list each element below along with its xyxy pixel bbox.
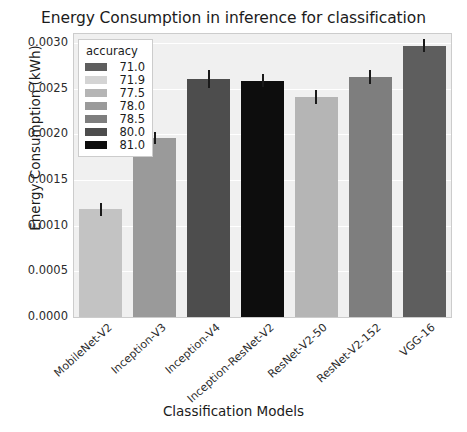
error-bar [100,203,102,216]
bar[interactable] [187,79,230,317]
bar[interactable] [133,138,176,317]
legend-label: 78.5 [115,112,145,126]
legend-swatch-icon [85,76,107,84]
legend-label: 71.0 [115,60,145,74]
y-tick-label: 0.0025 [4,81,68,95]
legend-title: accuracy [85,44,145,58]
error-bar [369,70,371,85]
bar[interactable] [241,81,284,317]
error-bar [154,132,156,145]
legend-item[interactable]: 78.0 [85,99,145,112]
legend-label: 81.0 [115,138,145,152]
legend: accuracy 71.071.977.578.078.580.081.0 [78,39,153,157]
legend-label: 80.0 [115,125,145,139]
error-bar [315,90,317,105]
x-axis-ticks: MobileNet-V2Inception-V3Inception-V4Ince… [0,321,467,401]
legend-item[interactable]: 81.0 [85,138,145,151]
legend-item[interactable]: 71.9 [85,73,145,86]
legend-label: 71.9 [115,73,145,87]
legend-item[interactable]: 80.0 [85,125,145,138]
y-tick-label: 0.0015 [4,172,68,186]
bar[interactable] [349,77,392,317]
y-tick-label: 0.0030 [4,35,68,49]
bar[interactable] [79,209,122,317]
legend-item[interactable]: 71.0 [85,60,145,73]
y-tick-label: 0.0020 [4,126,68,140]
bar[interactable] [403,46,446,317]
x-axis-label: Classification Models [0,403,467,419]
legend-swatch-icon [85,128,107,136]
legend-swatch-icon [85,89,107,97]
error-bar [262,74,264,87]
legend-swatch-icon [85,63,107,71]
error-bar [423,39,425,52]
legend-entries: 71.071.977.578.078.580.081.0 [85,60,145,151]
y-tick-label: 0.0005 [4,263,68,277]
page-title: Energy Consumption in inference for clas… [0,9,467,27]
legend-item[interactable]: 77.5 [85,86,145,99]
legend-swatch-icon [85,141,107,149]
y-axis-ticks: 0.00000.00050.00100.00150.00200.00250.00… [0,33,68,318]
legend-label: 78.0 [115,99,145,113]
error-bar [208,70,210,88]
legend-swatch-icon [85,102,107,110]
legend-item[interactable]: 78.5 [85,112,145,125]
bar[interactable] [295,97,338,317]
legend-swatch-icon [85,115,107,123]
legend-label: 77.5 [115,86,145,100]
chart-figure: Energy Consumption in inference for clas… [0,0,467,432]
y-tick-label: 0.0010 [4,218,68,232]
